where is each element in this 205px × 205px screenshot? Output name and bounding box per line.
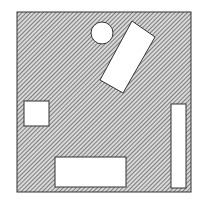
circle-shape [91,22,113,44]
hatched-diagram [0,0,205,205]
small-square-shape [24,101,49,126]
tall-rectangle-shape [171,104,186,188]
wide-rectangle-shape [55,157,126,187]
